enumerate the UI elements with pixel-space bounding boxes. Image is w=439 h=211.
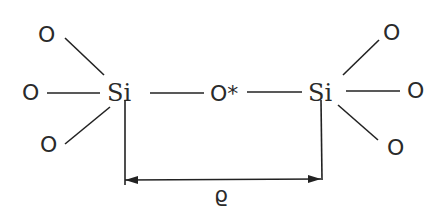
distance-label: ϱ [214,182,228,207]
right-oxygen-bottom: O [387,135,404,160]
right-silicon-label: Si [308,79,332,107]
si-o-si-diagram: O O O Si O* Si O O O ϱ [0,0,439,211]
right-oxygen-top: O [383,20,400,45]
distance-right-tick [321,100,322,180]
bond-right-bottom [338,105,378,140]
diagram-canvas: O O O Si O* Si O O O ϱ [0,0,439,211]
right-oxygen-middle: O [407,78,424,103]
bond-left-bottom [65,107,110,144]
bridge-oxygen-label: O* [210,81,238,106]
bond-right-top [343,40,379,75]
left-silicon-label: Si [107,79,131,107]
distance-arrow-line [125,179,321,180]
bond-left-top [65,38,104,75]
left-oxygen-middle: O [22,80,39,105]
arrow-right-head [308,175,321,183]
arrow-left-head [125,176,138,184]
left-oxygen-bottom: O [40,132,57,157]
left-oxygen-top: O [38,22,55,47]
